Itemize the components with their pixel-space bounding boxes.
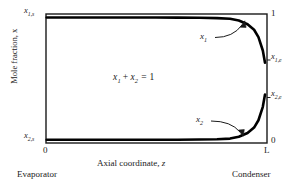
state-label-x2s-sub: 2,s: [28, 136, 35, 142]
state-label-x1s: x1,s: [24, 6, 34, 17]
state-label-x2s: x2,s: [24, 131, 34, 142]
x-axis-title-var: z: [162, 158, 166, 168]
equation-term1-sub: 1: [117, 77, 120, 84]
equation-plus: +: [123, 72, 129, 82]
y-tick-top-right: 1: [271, 9, 276, 18]
state-label-x2e-sub: 2,e: [275, 94, 282, 100]
equation-annotation: x1+x2= 1: [113, 73, 154, 84]
x-axis-title-text: Axial coordinate,: [97, 158, 162, 168]
equation-term2-sub: 2: [135, 77, 138, 84]
curve-x2: [47, 95, 265, 140]
callout-leader-x2: [211, 121, 240, 132]
section-label-condenser: Condenser: [232, 170, 271, 179]
plot-frame: [46, 14, 267, 143]
x-tick-right: L: [264, 146, 270, 155]
y-tick-bottom-right: 0: [271, 136, 276, 145]
mole-fraction-figure: Mole fraction, x x1,s x2,s x1,e x2,e 1 0…: [0, 0, 293, 185]
callout-label-x1-sub: 1: [204, 37, 207, 43]
x-axis-title: Axial coordinate, z: [97, 159, 165, 168]
x-tick-left: 0: [43, 146, 48, 155]
callout-label-x2: x2: [196, 115, 203, 126]
state-label-x2e: x2,e: [271, 89, 282, 100]
callout-leader-x1: [215, 25, 242, 38]
y-axis-title: Mole fraction, x: [10, 16, 19, 96]
section-label-evaporator: Evaporator: [17, 170, 57, 179]
callout-label-x2-sub: 2: [200, 120, 203, 126]
state-label-x1s-sub: 1,s: [28, 11, 35, 17]
state-label-x1e: x1,e: [271, 52, 282, 63]
state-label-x1e-sub: 1,e: [275, 57, 282, 63]
callout-label-x1: x1: [200, 32, 207, 43]
curve-x1: [47, 18, 265, 63]
equation-equals: = 1: [141, 72, 154, 82]
